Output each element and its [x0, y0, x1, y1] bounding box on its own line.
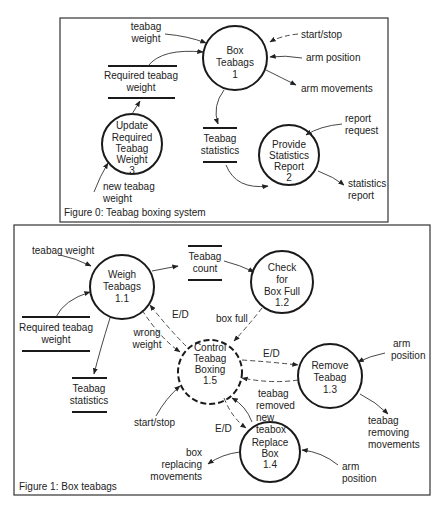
svg-text:Report: Report: [274, 161, 304, 172]
svg-text:arm movements: arm movements: [301, 83, 373, 94]
svg-text:Box: Box: [261, 448, 278, 459]
svg-text:Teabag: Teabag: [204, 133, 237, 144]
svg-text:Box Full: Box Full: [264, 286, 300, 297]
svg-text:removed: removed: [256, 400, 295, 411]
svg-text:Teabag: Teabag: [194, 353, 227, 364]
svg-text:position: position: [391, 350, 425, 361]
svg-text:Required teabag: Required teabag: [19, 322, 93, 333]
svg-text:teabag: teabag: [368, 415, 399, 426]
figure-1: Weigh Teabags 1.1 Teabag count Check for…: [14, 225, 430, 495]
svg-text:Teabag: Teabag: [189, 251, 222, 262]
svg-text:1.1: 1.1: [115, 293, 129, 304]
svg-text:3: 3: [129, 165, 135, 176]
flow-box-replacing-movements: [208, 452, 240, 464]
svg-text:wrong: wrong: [132, 327, 160, 338]
svg-text:Check: Check: [268, 262, 297, 273]
flow-report-request: [306, 124, 342, 135]
process-weigh-teabags: Weigh Teabags 1.1: [90, 255, 154, 319]
store-required-teabag-weight: Required teabag weight: [104, 66, 178, 98]
svg-text:request: request: [345, 125, 379, 136]
figure-0: Box Teabags 1 Required teabag weight Upd…: [60, 18, 388, 222]
svg-text:replacing: replacing: [161, 459, 202, 470]
flow-weigh-to-statistics: [94, 318, 110, 374]
svg-text:position: position: [342, 473, 376, 484]
flow-arm-position-replace: [302, 450, 338, 465]
svg-text:weight: weight: [132, 339, 162, 350]
svg-text:teabag weight: teabag weight: [32, 245, 94, 256]
flow-weigh-to-count: [152, 266, 178, 271]
flow-required-weight-to-box: [148, 51, 203, 66]
svg-text:1.3: 1.3: [323, 384, 337, 395]
svg-text:Required: Required: [112, 132, 153, 143]
store-teabag-statistics-1: Teabag statistics: [70, 378, 108, 412]
flow-arm-position-remove: [358, 353, 385, 362]
svg-text:movements: movements: [150, 471, 202, 482]
flow-arm-position: [270, 56, 302, 58]
svg-text:report: report: [345, 113, 371, 124]
flow-box-to-statistics: [216, 90, 224, 124]
svg-text:1.4: 1.4: [263, 459, 277, 470]
svg-text:Weigh: Weigh: [108, 269, 136, 280]
flow-arm-movements: [266, 70, 296, 85]
svg-text:movements: movements: [368, 439, 420, 450]
svg-text:new: new: [256, 412, 275, 423]
svg-text:E/D: E/D: [263, 348, 280, 359]
flow-update-to-required-weight: [132, 101, 140, 114]
process-control-teabag-boxing: Control Teabag Boxing 1.5: [178, 340, 242, 404]
svg-text:for: for: [276, 274, 288, 285]
svg-text:box full: box full: [216, 313, 248, 324]
flow-required-weight-to-weigh: [56, 292, 90, 317]
process-remove-teabag: Remove Teabag 1.3: [298, 344, 362, 408]
flow-statistics-report: [318, 171, 344, 185]
svg-text:statistics: statistics: [348, 178, 386, 189]
svg-text:Update: Update: [116, 120, 149, 131]
svg-text:1: 1: [232, 69, 238, 80]
figure-0-caption: Figure 0: Teabag boxing system: [64, 207, 206, 218]
svg-text:count: count: [193, 263, 218, 274]
svg-text:1.5: 1.5: [203, 375, 217, 386]
svg-text:Boxing: Boxing: [195, 364, 226, 375]
flow-teabag-removed: [242, 378, 298, 382]
svg-text:new teabag: new teabag: [103, 181, 155, 192]
flow-teabag-weight-1: [60, 255, 91, 266]
process-provide-statistics-report: Provide Statistics Report 2: [259, 125, 319, 185]
svg-text:weight: weight: [102, 193, 132, 204]
svg-text:Required teabag: Required teabag: [104, 70, 178, 81]
svg-text:report: report: [348, 190, 374, 201]
svg-text:teabox: teabox: [256, 424, 286, 435]
svg-text:Teabags: Teabags: [103, 281, 141, 292]
svg-text:statistics: statistics: [70, 395, 108, 406]
svg-text:arm position: arm position: [306, 52, 360, 63]
store-teabag-statistics: Teabag statistics: [201, 128, 239, 162]
flow-start-stop: [270, 34, 298, 42]
svg-text:Teabag: Teabag: [314, 372, 347, 383]
svg-text:teabag: teabag: [131, 21, 162, 32]
svg-text:weight: weight: [41, 334, 71, 345]
process-box-teabags: Box Teabags 1: [203, 26, 267, 90]
svg-text:Box: Box: [226, 45, 243, 56]
svg-text:removing: removing: [368, 427, 409, 438]
figure-1-caption: Figure 1: Box teabags: [19, 481, 117, 492]
svg-text:E/D: E/D: [215, 423, 232, 434]
flow-removing-movements: [360, 394, 388, 414]
svg-text:Remove: Remove: [311, 360, 349, 371]
store-teabag-count: Teabag count: [188, 246, 222, 280]
svg-text:weight: weight: [126, 82, 156, 93]
svg-text:Teabags: Teabags: [216, 57, 254, 68]
svg-text:Control: Control: [194, 342, 226, 353]
svg-text:2: 2: [286, 172, 292, 183]
svg-text:arm: arm: [393, 338, 410, 349]
store-required-teabag-weight-1: Required teabag weight: [19, 317, 93, 351]
svg-text:arm: arm: [342, 461, 359, 472]
svg-text:statistics: statistics: [201, 145, 239, 156]
flow-count-to-check: [224, 261, 254, 272]
process-check-for-box-full: Check for Box Full 1.2: [251, 251, 313, 313]
svg-text:E/D: E/D: [172, 309, 189, 320]
flow-start-stop-1: [156, 386, 180, 416]
svg-text:start/stop: start/stop: [134, 417, 176, 428]
svg-text:Provide: Provide: [272, 139, 306, 150]
svg-text:teabag: teabag: [258, 388, 289, 399]
svg-text:weight: weight: [131, 33, 161, 44]
svg-text:box: box: [186, 447, 202, 458]
svg-text:Teabag: Teabag: [73, 383, 106, 394]
